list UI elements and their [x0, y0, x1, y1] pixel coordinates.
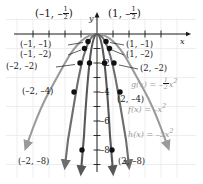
point-h-neg1	[87, 60, 92, 65]
label-point-neg1-neghalf: (–1, –12)	[35, 6, 73, 20]
point-g-pos2	[111, 60, 116, 65]
point-h-neg2	[79, 147, 84, 152]
label-point-neg2-neg2: (–2, –2)	[6, 62, 37, 71]
point-f-neg2	[71, 89, 76, 94]
point-f-neg1	[82, 46, 87, 51]
function-label-g: g(x) = –12x2	[131, 77, 177, 90]
point-h-pos2	[109, 147, 114, 152]
point-g-pos1	[103, 39, 108, 44]
label-point-neg2-neg8: (–2, –8)	[18, 157, 49, 166]
y-axis-label: y	[89, 15, 94, 23]
label-point-neg1-neg1: (–1, –1)	[20, 40, 51, 49]
function-label-f: f(x) = –x2	[128, 103, 166, 114]
label-point-pos1-neg2: (1, –2)	[126, 50, 153, 59]
ytick-label-neg4: –4	[100, 88, 110, 97]
label-point-neg2-neg4: (–2, –4)	[22, 87, 53, 96]
label-point-pos2-neg2: (2, –2)	[140, 64, 167, 73]
label-point-pos1-neghalf: (1, –12)	[108, 6, 141, 20]
parabola-figure: (–1, –12) (1, –12) (–1, –1) (–1, –2) (–2…	[0, 0, 203, 184]
point-f-pos1	[107, 46, 112, 51]
function-label-h: h(x) = –2x2	[128, 128, 174, 139]
x-axis-label: x	[180, 38, 185, 46]
label-point-pos1-neg1: (1, –1)	[126, 40, 153, 49]
label-point-neg1-neg2: (–1, –2)	[20, 50, 51, 59]
point-g-neg2	[77, 60, 82, 65]
ytick-label-neg2: –2	[100, 59, 110, 68]
point-g-neg1	[85, 39, 90, 44]
label-point-pos2-neg8: (2, –8)	[118, 157, 145, 166]
ytick-label-neg8: –8	[100, 146, 110, 155]
ytick-label-neg6: –6	[100, 117, 110, 126]
